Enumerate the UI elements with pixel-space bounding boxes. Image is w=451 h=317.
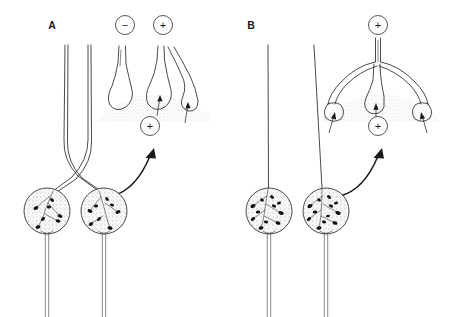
sign-excitatory-soma-b: + xyxy=(369,117,388,136)
sign-symbol: − xyxy=(122,19,128,31)
sign-symbol: + xyxy=(375,120,381,132)
soma-b-left xyxy=(246,188,292,234)
sign-excitatory-soma-a: + xyxy=(141,117,160,136)
dendrite-b-1 xyxy=(268,45,269,188)
sign-symbol: + xyxy=(147,120,153,132)
sign-inhibitory-left-a: − xyxy=(116,16,135,35)
soma-a-left xyxy=(24,188,70,234)
figure-root: A xyxy=(0,0,451,317)
sign-excitatory-top-b: + xyxy=(369,16,388,35)
sign-excitatory-right-a: + xyxy=(154,16,173,35)
panel-b-label: B xyxy=(247,19,255,31)
neuron-diagram-canvas: A xyxy=(0,0,451,317)
sign-symbol: + xyxy=(375,19,381,31)
panel-a-label: A xyxy=(48,19,56,31)
sign-symbol: + xyxy=(160,19,166,31)
soma-b-right xyxy=(303,188,349,234)
